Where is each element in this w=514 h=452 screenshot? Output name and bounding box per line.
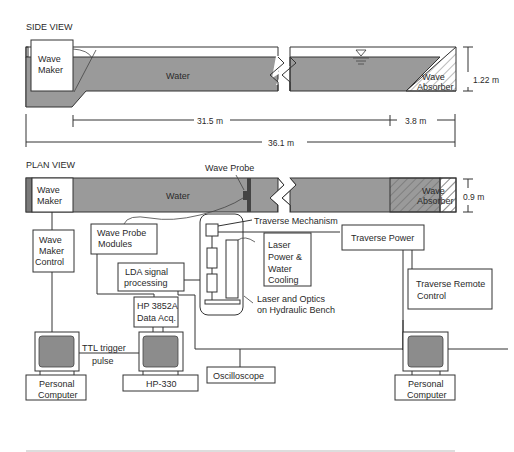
pc-left-label-2: Computer	[38, 390, 78, 400]
plan-absorber-label-2: Absorber	[417, 196, 454, 206]
side-absorber-label-2: Absorber	[417, 82, 454, 92]
plan-wave-maker: Wave Maker	[32, 178, 73, 212]
plan-absorber-label-1: Wave	[422, 186, 445, 196]
plan-view-title: PLAN VIEW	[26, 160, 76, 170]
ttl-label-2: pulse	[92, 356, 114, 366]
laser-power-label-3: Water	[268, 264, 292, 274]
oscilloscope-label: Oscilloscope	[213, 371, 264, 381]
plan-width-dimension: 0.9 m	[463, 179, 484, 212]
plan-water-label: Water	[166, 191, 190, 201]
traverse-power-label: Traverse Power	[351, 233, 414, 243]
plan-width-value: 0.9 m	[463, 192, 484, 202]
pc-right-label-1: Personal	[408, 379, 444, 389]
side-wave-maker-label-1: Wave	[38, 54, 61, 64]
hp-330-label: HP-330	[146, 379, 177, 389]
oscilloscope: Oscilloscope	[207, 349, 275, 383]
side-absorber-label-1: Wave	[422, 72, 445, 82]
ttl-label-1: TTL trigger	[82, 343, 126, 353]
personal-computer-right: Personal Computer	[395, 320, 455, 400]
traverse-remote-label-2: Control	[417, 291, 446, 301]
side-height-dimension: 1.22 m	[463, 47, 499, 91]
pc-left-label-1: Personal	[39, 379, 75, 389]
side-length-dimensions: 31.5 m 3.8 m 36.1 m	[26, 114, 455, 148]
side-view-title: SIDE VIEW	[26, 22, 73, 32]
pc-right-label-2: Computer	[407, 390, 447, 400]
side-water-label: Water	[166, 71, 190, 81]
dim-3-8: 3.8 m	[405, 116, 426, 126]
wave-probe-modules-label-1: Wave Probe	[97, 228, 146, 238]
traverse-remote-control: Traverse Remote Control	[408, 269, 492, 309]
dim-36-1: 36.1 m	[268, 138, 294, 148]
wave-probe-modules-label-2: Modules	[98, 239, 133, 249]
traverse-remote-label-1: Traverse Remote	[416, 279, 485, 289]
laser-power-cooling: Laser Power & Water Cooling	[264, 233, 311, 286]
dim-31-5: 31.5 m	[197, 116, 223, 126]
laser-optics-label-1: Laser and Optics	[257, 294, 326, 304]
plan-view-flume	[26, 175, 456, 212]
hp-3852a-data-acq: HP 3852A Data Acq.	[134, 297, 178, 332]
wave-maker-control-label-1: Wave	[39, 235, 62, 245]
traverse-mechanism-label: Traverse Mechanism	[254, 216, 338, 226]
side-height-value: 1.22 m	[473, 75, 499, 85]
hp-330-computer: HP-330	[123, 332, 198, 391]
laser-optics-label-2: on Hydraulic Bench	[257, 305, 335, 315]
personal-computer-left: Personal Computer	[26, 332, 86, 400]
lda-label-1: LDA signal	[125, 267, 168, 277]
wave-maker-control: Wave Maker Control	[33, 212, 74, 332]
plan-wave-maker-label-1: Wave	[37, 185, 60, 195]
wave-maker-control-label-3: Control	[35, 257, 64, 267]
flume-diagram: SIDE VIEW Wave Maker Water Wave	[0, 0, 514, 452]
lda-label-2: processing	[124, 278, 168, 288]
wave-maker-control-label-2: Maker	[39, 246, 64, 256]
laser-power-label-1: Laser	[268, 240, 291, 250]
laser-power-label-4: Cooling	[268, 275, 299, 285]
side-wave-maker-label-2: Maker	[38, 65, 63, 75]
wave-probe-label: Wave Probe	[205, 163, 254, 173]
laser-power-label-2: Power &	[268, 252, 302, 262]
hp-3852a-label-2: Data Acq.	[137, 313, 176, 323]
hp-3852a-label-1: HP 3852A	[137, 301, 178, 311]
plan-wave-maker-label-2: Maker	[37, 196, 62, 206]
